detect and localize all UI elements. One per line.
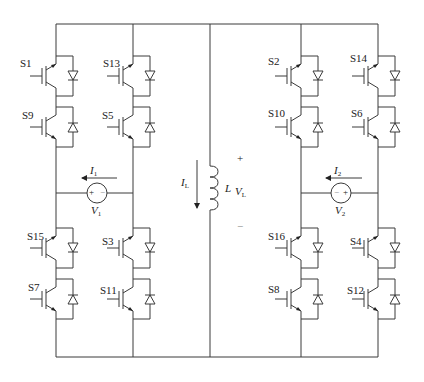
- v2-minus-sign: −: [334, 188, 339, 197]
- switch-label-s3: S3: [102, 236, 114, 247]
- voltage-label-v2: V2: [335, 205, 345, 218]
- v1-plus-sign: +: [89, 188, 94, 197]
- switch-label-s14: S14: [350, 53, 367, 64]
- current-label-il: IL: [181, 177, 189, 190]
- switch-label-s11: S11: [100, 285, 117, 296]
- switch-label-s16: S16: [268, 231, 285, 242]
- switch-label-s8: S8: [268, 284, 280, 295]
- current-label-i1: I1: [90, 165, 97, 178]
- switch-label-s15: S15: [27, 231, 44, 242]
- voltage-source-v2: [301, 178, 378, 203]
- switch-label-s10: S10: [268, 108, 285, 119]
- inductor-l: [197, 160, 218, 210]
- voltage-source-v1: [56, 178, 133, 203]
- voltage-label-vl: VL: [235, 186, 246, 199]
- vl-minus-sign: −: [237, 221, 243, 232]
- current-label-i2: I2: [334, 165, 341, 178]
- v1-minus-sign: −: [100, 188, 105, 197]
- switch-label-s12: S12: [347, 285, 364, 296]
- switch-label-s13: S13: [103, 58, 120, 69]
- switch-label-s9: S9: [22, 110, 34, 121]
- switch-label-s6: S6: [351, 108, 363, 119]
- vl-plus-sign: +: [237, 153, 243, 164]
- switch-label-s7: S7: [28, 282, 40, 293]
- switch-label-s4: S4: [350, 236, 362, 247]
- v2-plus-sign: +: [343, 188, 348, 197]
- inductor-label-l: L: [225, 183, 231, 194]
- switch-label-s1: S1: [20, 58, 32, 69]
- voltage-label-v1: V1: [91, 205, 101, 218]
- dual-active-bridge-circuit-diagram: S1 S9 S15 S7 S13 S5 S3 S11 S2 S10 S16 S8…: [0, 0, 424, 382]
- switch-label-s2: S2: [268, 56, 280, 67]
- switch-label-s5: S5: [102, 110, 114, 121]
